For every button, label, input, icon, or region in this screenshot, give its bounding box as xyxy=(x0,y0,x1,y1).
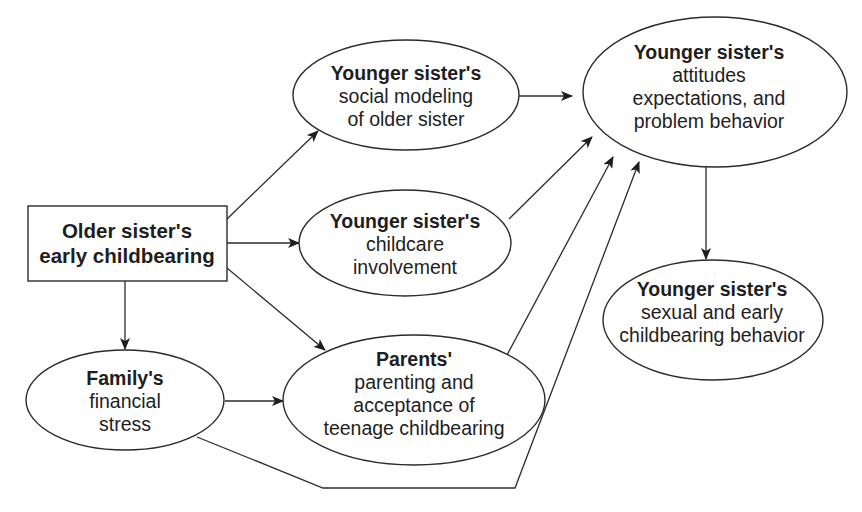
edge-older-to-parenting xyxy=(227,268,325,350)
node-older-childbearing: Older sister's early childbearing xyxy=(39,218,214,268)
edge-childcare-to-attitudes xyxy=(509,137,592,219)
node-social-modeling: Younger sister's social modeling of olde… xyxy=(331,62,482,131)
node-parenting: Parents' parenting and acceptance of tee… xyxy=(323,348,504,440)
node-childcare: Younger sister's childcare involvement xyxy=(330,210,481,279)
node-line: expectations, and xyxy=(633,87,786,110)
node-title: Family's xyxy=(86,367,163,390)
node-line: early childbearing xyxy=(39,243,214,268)
node-line: social modeling xyxy=(331,85,482,108)
node-line: attitudes xyxy=(633,64,786,87)
node-financial-stress: Family's financial stress xyxy=(86,367,163,436)
node-line: problem behavior xyxy=(633,110,786,133)
node-line: childcare xyxy=(330,233,481,256)
node-title: Younger sister's xyxy=(619,278,804,301)
node-title: Older sister's xyxy=(39,218,214,243)
node-title: Younger sister's xyxy=(331,62,482,85)
node-line: acceptance of xyxy=(323,394,504,417)
path-diagram: Older sister's early childbearing Younge… xyxy=(0,0,862,512)
node-title: Parents' xyxy=(323,348,504,371)
node-line: involvement xyxy=(330,256,481,279)
node-line: stress xyxy=(86,413,163,436)
node-line: childbearing behavior xyxy=(619,324,804,347)
edge-older-to-social-modeling xyxy=(227,131,318,219)
node-attitudes: Younger sister's attitudes expectations,… xyxy=(633,41,786,133)
edge-parenting-to-attitudes xyxy=(507,157,613,355)
node-title: Younger sister's xyxy=(633,41,786,64)
node-line: teenage childbearing xyxy=(323,417,504,440)
node-line: financial xyxy=(86,390,163,413)
node-title: Younger sister's xyxy=(330,210,481,233)
node-line: of older sister xyxy=(331,108,482,131)
node-line: sexual and early xyxy=(619,301,804,324)
node-sexual-behavior: Younger sister's sexual and early childb… xyxy=(619,278,804,347)
node-line: parenting and xyxy=(323,371,504,394)
